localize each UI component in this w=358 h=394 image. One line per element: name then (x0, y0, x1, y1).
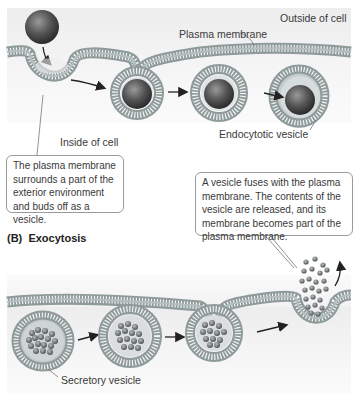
budding-vesicle (115, 71, 159, 115)
endocytotic-vesicle (271, 68, 327, 128)
outside-cell-label: Outside of cell (280, 12, 347, 24)
approaching-vesicle (103, 309, 157, 363)
free-vesicle (195, 69, 243, 117)
section-letter: (B) (7, 232, 22, 244)
exocytosis-title: (B) Exocytosis (7, 232, 87, 244)
plasma-membrane-label: Plasma membrane (179, 28, 267, 40)
exocytosis-callout: A vesicle fuses with the plasma membrane… (195, 172, 353, 236)
section-name: Exocytosis (28, 232, 86, 244)
inside-cell-label: Inside of cell (60, 136, 118, 148)
particle (25, 10, 59, 44)
endocytotic-vesicle-label: Endocytotic vesicle (219, 128, 308, 140)
endocytosis-callout: The plasma membrane surrounds a part of … (6, 155, 124, 213)
secretory-vesicle-label: Secretory vesicle (61, 374, 141, 386)
